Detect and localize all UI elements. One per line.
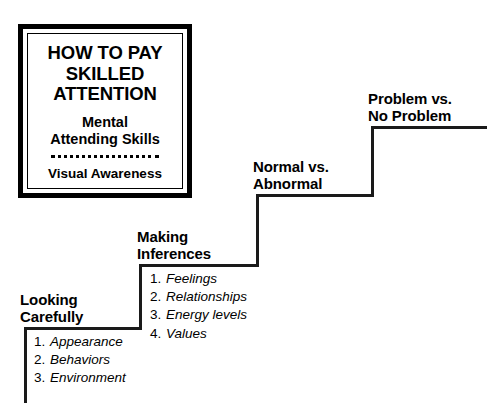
list-item: 3.Environment xyxy=(34,369,126,387)
title-plaque: HOW TO PAY SKILLED ATTENTION Mental Atte… xyxy=(18,24,192,198)
list-item-text: Feelings xyxy=(166,271,217,286)
list-item-text: Behaviors xyxy=(50,352,110,367)
list-item-number: 3. xyxy=(34,369,50,387)
plaque-heading: HOW TO PAY SKILLED ATTENTION xyxy=(48,43,163,105)
title-plaque-rule: HOW TO PAY SKILLED ATTENTION Mental Atte… xyxy=(27,33,183,189)
list-item-text: Values xyxy=(166,326,207,341)
stair-riser-2 xyxy=(256,194,259,267)
list-item-number: 2. xyxy=(34,351,50,369)
stair-tread-making-inferences xyxy=(139,264,259,267)
step-label-making-inferences: Making Inferences xyxy=(137,228,211,262)
plaque-subheading: Mental Attending Skills xyxy=(50,114,160,148)
stair-tread-problem-vs-no-problem xyxy=(371,126,487,129)
step-label-problem-vs-no-problem: Problem vs. No Problem xyxy=(368,90,452,124)
list-item: 2.Behaviors xyxy=(34,351,126,369)
list-item: 2.Relationships xyxy=(150,288,247,306)
stair-tread-looking-carefully xyxy=(24,327,142,330)
list-item-number: 3. xyxy=(150,306,166,324)
stair-riser-bottom-tail xyxy=(24,327,27,403)
skilled-attention-staircase-diagram: HOW TO PAY SKILLED ATTENTION Mental Atte… xyxy=(0,0,503,403)
list-item-number: 4. xyxy=(150,325,166,343)
step-label-normal-vs-abnormal: Normal vs. Abnormal xyxy=(253,158,329,192)
list-item-text: Relationships xyxy=(166,289,247,304)
stair-riser-1 xyxy=(139,264,142,330)
list-item-number: 2. xyxy=(150,288,166,306)
dotted-divider-icon xyxy=(51,155,159,160)
plaque-footer: Visual Awareness xyxy=(48,166,162,182)
list-item: 1.Appearance xyxy=(34,333,126,351)
list-item-text: Energy levels xyxy=(166,307,247,322)
step-list-looking-carefully: 1.Appearance 2.Behaviors 3.Environment xyxy=(34,333,126,388)
stair-riser-3 xyxy=(371,126,374,197)
list-item-text: Appearance xyxy=(50,334,123,349)
step-list-making-inferences: 1.Feelings 2.Relationships 3.Energy leve… xyxy=(150,270,247,343)
list-item-number: 1. xyxy=(150,270,166,288)
list-item-text: Environment xyxy=(50,370,126,385)
list-item: 1.Feelings xyxy=(150,270,247,288)
title-plaque-inner: HOW TO PAY SKILLED ATTENTION Mental Atte… xyxy=(23,29,187,193)
list-item: 4.Values xyxy=(150,325,247,343)
list-item-number: 1. xyxy=(34,333,50,351)
stair-tread-normal-vs-abnormal xyxy=(256,194,374,197)
list-item: 3.Energy levels xyxy=(150,306,247,324)
step-label-looking-carefully: Looking Carefully xyxy=(20,291,83,325)
